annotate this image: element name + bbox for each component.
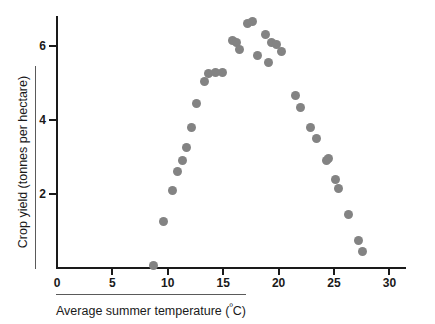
- data-point: [187, 123, 196, 132]
- y-tick-mark: [49, 119, 56, 121]
- data-point: [358, 247, 367, 256]
- data-point: [248, 17, 257, 26]
- x-tick-label: 10: [153, 277, 183, 289]
- scatter-chart: 246 051015202530 Crop yield (tonnes per …: [0, 0, 435, 324]
- data-point: [277, 47, 286, 56]
- data-point: [168, 186, 177, 195]
- data-point: [178, 156, 187, 165]
- data-point: [334, 184, 343, 193]
- x-axis-line: [56, 267, 406, 269]
- data-point: [253, 51, 262, 60]
- x-tick-label: 15: [208, 277, 238, 289]
- x-tick-mark: [333, 269, 335, 275]
- data-point: [306, 123, 315, 132]
- y-axis-line: [56, 16, 58, 269]
- data-point: [296, 103, 305, 112]
- x-tick-label: 5: [97, 277, 127, 289]
- x-tick-mark: [222, 269, 224, 275]
- x-tick-mark: [111, 269, 113, 275]
- data-point: [235, 45, 244, 54]
- y-tick-mark: [49, 45, 56, 47]
- x-tick-label: 30: [374, 277, 404, 289]
- x-tick-label: 20: [264, 277, 294, 289]
- data-point: [159, 217, 168, 226]
- data-point: [312, 134, 321, 143]
- x-tick-mark: [167, 269, 169, 275]
- y-axis-title-rule: [35, 66, 36, 269]
- data-point: [324, 154, 333, 163]
- y-tick-label: 6: [22, 41, 46, 51]
- y-tick-mark: [49, 193, 56, 195]
- data-point: [173, 167, 182, 176]
- x-axis-title-text: Average summer temperature (ºC): [56, 300, 256, 318]
- data-point: [354, 236, 363, 245]
- x-axis-title-rule: [56, 294, 246, 295]
- data-point: [331, 175, 340, 184]
- data-point: [149, 261, 158, 270]
- x-tick-mark: [388, 269, 390, 275]
- data-point: [218, 68, 227, 77]
- y-axis-title-text: Crop yield (tonnes per hectare): [16, 60, 30, 265]
- x-tick-label: 25: [319, 277, 349, 289]
- x-tick-label: 0: [42, 277, 72, 289]
- data-point: [192, 99, 201, 108]
- data-point: [182, 143, 191, 152]
- data-point: [264, 58, 273, 67]
- x-tick-mark: [278, 269, 280, 275]
- y-axis-title: Crop yield (tonnes per hectare): [0, 60, 40, 275]
- data-point: [344, 210, 353, 219]
- data-point: [291, 91, 300, 100]
